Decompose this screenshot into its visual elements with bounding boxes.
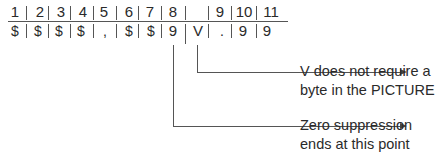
separator [48,24,49,38]
separator [185,24,186,44]
separator [70,24,71,38]
position-4: 4 [74,4,92,20]
position-6: 6 [120,4,138,20]
separator [93,6,94,20]
picture-char-8: 9 [164,23,182,39]
separator [116,6,117,20]
picture-char-3: $ [50,23,68,39]
separator [256,6,257,20]
separator [93,24,94,38]
position-3: 3 [52,4,70,20]
separator [256,24,257,38]
annotation-zero-line2: ends at this point [300,135,412,154]
position-11: 11 [260,4,282,20]
picture-char-5: , [96,23,114,39]
annotation-v-line1: V does not require a [300,62,435,81]
separator [231,24,232,38]
picture-char-point: . [213,23,231,39]
picture-char-10: 9 [234,23,252,39]
separator [70,6,71,20]
position-2: 2 [31,4,49,20]
picture-char-6: $ [120,23,138,39]
position-1: 1 [6,4,24,20]
separator [48,6,49,20]
separator [185,6,186,20]
separator [138,6,139,20]
separator [26,6,27,20]
annotation-zero-suppression: Zero suppression ends at this point [300,116,412,154]
separator [138,24,139,38]
annotation-zero-line1: Zero suppression [300,116,412,135]
position-7: 7 [141,4,159,20]
position-5: 5 [95,4,113,20]
separator [26,24,27,38]
picture-char-11: 9 [258,23,276,39]
position-9: 9 [211,4,229,20]
annotation-v-line2: byte in the PICTURE [300,81,435,100]
leader-line-9 [173,45,174,127]
picture-char-7: $ [142,23,160,39]
annotation-v: V does not require a byte in the PICTURE [300,62,435,100]
picture-char-1: $ [6,23,24,39]
position-8: 8 [164,4,182,20]
separator [161,6,162,20]
leader-line-v [197,45,198,73]
separator [116,24,117,38]
position-10: 10 [233,4,255,20]
separator [161,24,162,38]
separator [231,6,232,20]
picture-char-2: $ [29,23,47,39]
picture-char-v: V [189,23,207,39]
separator [208,6,209,20]
picture-char-4: $ [72,23,90,39]
separator [208,24,209,38]
